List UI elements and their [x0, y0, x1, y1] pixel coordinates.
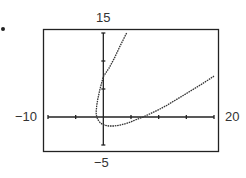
axes — [48, 33, 214, 145]
plotted-curve — [96, 33, 214, 126]
viewing-window-frame — [44, 30, 219, 152]
x-max-label: 20 — [225, 110, 239, 124]
y-min-label: −5 — [94, 156, 109, 170]
y-max-label: 15 — [96, 11, 110, 25]
graph-window — [0, 0, 246, 178]
axis-ticks — [48, 33, 214, 145]
x-min-label: −10 — [15, 110, 37, 124]
